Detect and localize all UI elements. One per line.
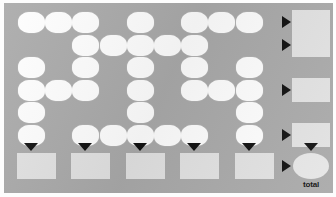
column-sum-box-c9[interactable]	[235, 153, 274, 179]
column-sum-arrow-down-icon-c9	[242, 143, 256, 151]
answer-cell-r3c3[interactable]	[72, 57, 99, 78]
answer-cell-r2c3[interactable]	[72, 35, 99, 56]
row-sum-box-r1[interactable]	[292, 10, 330, 34]
column-sum-arrow-down-icon-c7	[187, 143, 201, 151]
answer-cell-r4c8[interactable]	[208, 80, 235, 101]
column-sum-arrow-down-icon-c5	[133, 143, 147, 151]
answer-cell-r3c1[interactable]	[18, 57, 45, 78]
total-arrow-down-icon	[304, 143, 318, 151]
answer-cell-r5c1[interactable]	[18, 102, 45, 123]
answer-cell-r1c7[interactable]	[181, 12, 208, 33]
answer-cell-r6c4[interactable]	[100, 125, 127, 146]
answer-cell-r1c2[interactable]	[45, 12, 72, 33]
column-sum-box-c3[interactable]	[71, 153, 110, 179]
answer-cell-r3c9[interactable]	[236, 57, 263, 78]
answer-cell-r4c7[interactable]	[181, 80, 208, 101]
column-sum-arrow-down-icon-c3	[78, 143, 92, 151]
row-sum-box-r4[interactable]	[292, 78, 330, 102]
column-sum-box-c5[interactable]	[126, 153, 165, 179]
answer-cell-r1c1[interactable]	[18, 12, 45, 33]
answer-cell-r2c7[interactable]	[181, 35, 208, 56]
answer-cell-r1c9[interactable]	[236, 12, 263, 33]
answer-cell-r1c5[interactable]	[127, 12, 154, 33]
answer-cell-r5c9[interactable]	[236, 102, 263, 123]
row-sum-arrow-right-icon-r4	[282, 84, 291, 96]
answer-cell-r4c2[interactable]	[45, 80, 72, 101]
answer-cell-r3c5[interactable]	[127, 57, 154, 78]
answer-cell-r6c6[interactable]	[154, 125, 181, 146]
total-value-oval[interactable]	[293, 153, 329, 179]
answer-cell-r1c3[interactable]	[72, 12, 99, 33]
column-sum-box-c7[interactable]	[180, 153, 219, 179]
answer-cell-r4c3[interactable]	[72, 80, 99, 101]
row-sum-arrow-right-icon-r6	[282, 129, 291, 141]
answer-cell-r2c6[interactable]	[154, 35, 181, 56]
answer-cell-r4c9[interactable]	[236, 80, 263, 101]
answer-cell-r2c4[interactable]	[100, 35, 127, 56]
puzzle-screenshot: total	[0, 0, 336, 197]
column-sum-box-c1[interactable]	[17, 153, 56, 179]
answer-cell-r5c5[interactable]	[127, 102, 154, 123]
total-label: total	[293, 180, 329, 189]
answer-cell-r3c7[interactable]	[181, 57, 208, 78]
row-sum-arrow-right-icon-r1	[282, 16, 291, 28]
answer-cell-r2c5[interactable]	[127, 35, 154, 56]
row-sum-box-r2[interactable]	[292, 33, 330, 57]
answer-cell-r1c8[interactable]	[208, 12, 235, 33]
column-sum-arrow-down-icon-c1	[24, 143, 38, 151]
answer-cell-r4c5[interactable]	[127, 80, 154, 101]
row-sum-arrow-right-icon-r2	[282, 39, 291, 51]
total-arrow-right-icon	[282, 160, 291, 172]
puzzle-board: total	[4, 3, 333, 193]
answer-cell-r4c1[interactable]	[18, 80, 45, 101]
